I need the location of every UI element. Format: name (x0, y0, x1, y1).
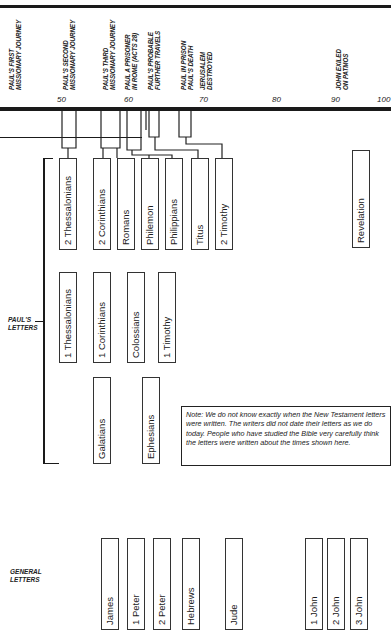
book-title: 1 Corinthians (97, 302, 107, 358)
book-title: Revelation (356, 198, 366, 243)
book-title: 2 Timothy (219, 204, 229, 245)
book-box: Colossians (127, 272, 145, 363)
book-box: Philemon (141, 158, 159, 250)
book-title: Titus (195, 225, 205, 245)
pauls-letters-bracket (43, 158, 45, 464)
book-box: Galatians (93, 377, 111, 464)
book-box: 1 John (305, 538, 323, 630)
book-box: James (101, 538, 119, 630)
book-box: 2 Corinthians (93, 158, 111, 250)
book-title: 1 John (309, 596, 319, 625)
book-title: Jude (229, 604, 239, 625)
book-box: Titus (191, 158, 209, 250)
book-box: Revelation (352, 150, 370, 248)
book-title: 2 Corinthians (97, 189, 107, 245)
book-title: Ephesians (146, 415, 156, 459)
book-box: Ephesians (142, 377, 160, 464)
book-title: Colossians (131, 312, 141, 358)
book-box: Romans (117, 158, 135, 250)
book-title: Hebrews (186, 588, 196, 626)
book-title: Philippians (169, 199, 179, 245)
book-title: 2 Peter (157, 594, 167, 625)
book-box: Philippians (165, 158, 183, 250)
book-box: Hebrews (182, 538, 200, 630)
pauls-letters-label: PAUL'S LETTERS (8, 316, 38, 331)
book-box: 3 John (350, 538, 368, 630)
book-title: 1 Thessalonians (63, 289, 73, 358)
book-box: 2 Thessalonians (59, 158, 77, 250)
book-title: 2 John (331, 596, 341, 625)
bracket-top-tick (43, 158, 53, 159)
book-box: 1 Timothy (158, 272, 176, 363)
book-box: 1 Peter (127, 538, 145, 630)
book-title: 1 Timothy (162, 317, 172, 358)
note-text: Note: We do not know exactly when the Ne… (186, 410, 385, 447)
book-box: 1 Corinthians (93, 272, 111, 363)
general-letters-label: GENERAL LETTERS (10, 568, 42, 583)
book-box: 1 Thessalonians (59, 272, 77, 363)
bracket-bottom-tick (43, 463, 59, 464)
book-title: 2 Thessalonians (63, 176, 73, 245)
timeline-connectors (0, 0, 391, 170)
book-title: 1 Peter (131, 594, 141, 625)
book-title: 3 John (354, 596, 364, 625)
book-box: Jude (225, 538, 243, 630)
book-title: Romans (121, 210, 131, 245)
book-title: James (105, 597, 115, 625)
book-box: 2 John (327, 538, 345, 630)
book-box: 2 Peter (153, 538, 171, 630)
book-title: Philemon (145, 205, 155, 245)
book-title: Galatians (97, 419, 107, 459)
note-box: Note: We do not know exactly when the Ne… (181, 406, 391, 466)
book-box: 2 Timothy (215, 158, 233, 250)
